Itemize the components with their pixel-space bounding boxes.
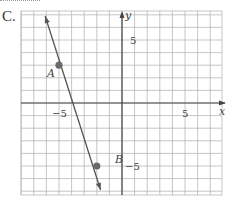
y-tick-label-neg5: −5 [125,161,140,172]
point-a-label: A [46,67,55,80]
x-tick-label-neg5: −5 [52,108,67,119]
point-a [55,62,62,69]
x-axis-label: x [219,105,226,118]
point-b-label: B [114,153,123,166]
coordinate-plane: xy−555−5AB [0,0,227,202]
line-arrow-up-icon [45,16,50,23]
point-b [93,162,100,169]
y-tick-label-5: 5 [130,35,136,46]
x-tick-label-5: 5 [182,108,188,119]
y-axis-label: y [124,9,132,22]
